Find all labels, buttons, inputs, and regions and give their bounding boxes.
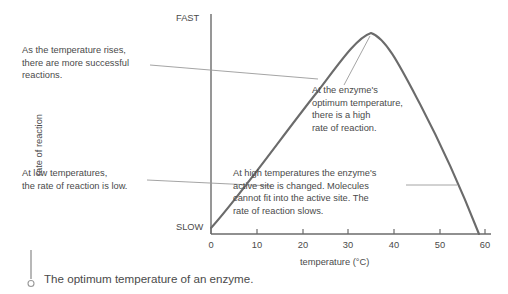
enzyme-temperature-figure: FAST SLOW rate of reaction temperature (… — [0, 0, 508, 294]
x-tick-label: 50 — [430, 240, 450, 250]
figure-caption: The optimum temperature of an enzyme. — [44, 272, 253, 285]
x-axis-ticks — [211, 229, 485, 234]
x-tick-label: 20 — [293, 240, 313, 250]
x-tick-label: 10 — [247, 240, 267, 250]
annotation-high-temperature: At high temperatures the enzyme's active… — [233, 167, 408, 217]
y-axis-bottom-label: SLOW — [176, 222, 203, 232]
x-tick-label: 30 — [338, 240, 358, 250]
y-axis-top-label: FAST — [176, 13, 199, 23]
x-tick-label: 0 — [201, 240, 221, 250]
annotation-optimum-temperature: At the enzyme's optimum temperature, the… — [312, 84, 422, 134]
annotation-rising-temperature: As the temperature rises, there are more… — [22, 44, 182, 82]
x-axis-title: temperature (°C) — [300, 257, 369, 267]
caption-pin-circle — [28, 281, 34, 287]
x-tick-label: 60 — [475, 240, 495, 250]
annotation-low-temperature: At low temperatures, the rate of reactio… — [22, 167, 192, 192]
x-tick-label: 40 — [384, 240, 404, 250]
